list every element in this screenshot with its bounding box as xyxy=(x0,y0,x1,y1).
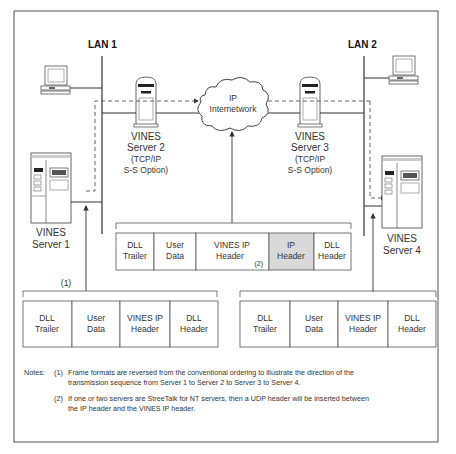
frame-left-cell-2-line2: Data xyxy=(87,324,105,334)
frame-middle-cell-4-line1: IP xyxy=(287,240,295,250)
frame-middle-note-marker: (2) xyxy=(254,260,263,268)
note-2-line2: the IP header and the VINES IP header. xyxy=(68,404,195,413)
frame-right-cell-1-line2: Trailer xyxy=(253,324,277,334)
server2-tower-icon xyxy=(134,77,158,127)
lan2-label: LAN 2 xyxy=(348,39,377,50)
cloud-label-line2: Internetwork xyxy=(210,104,258,114)
frame-left-marker: (1) xyxy=(61,278,72,288)
note-1-text: Frame formats are reversed from the conv… xyxy=(68,368,434,388)
frame-middle-cell-5-line2: Header xyxy=(318,251,346,261)
server4-label-line1: VINES xyxy=(387,233,417,244)
note-2: (2) If one or two servers are StreeTalk … xyxy=(24,394,434,414)
frame-left-cell-1-line1: DLL xyxy=(39,313,55,323)
frame-left-cell-1-line2: Trailer xyxy=(35,324,59,334)
server3-tower-icon xyxy=(298,77,322,127)
frame-middle-cell-3-line2: Header xyxy=(216,251,244,261)
cloud-label-line1: IP xyxy=(229,93,237,103)
server2-label-line3: (TCP/IP xyxy=(131,154,162,164)
workstation-left-icon xyxy=(41,66,70,94)
server3-label-line2: Server 3 xyxy=(291,142,329,153)
server3-label-line1: VINES xyxy=(295,131,325,142)
frame-middle-cell-2-line2: Data xyxy=(166,251,184,261)
frame-right-cell-1-line1: DLL xyxy=(257,313,273,323)
frame-left-cell-3-line1: VINES IP xyxy=(127,313,163,323)
frame-right-cell-4-line2: Header xyxy=(398,324,426,334)
frame-middle-cell-1-line2: Trailer xyxy=(123,251,147,261)
note-2-line1: If one or two servers are StreeTalk for … xyxy=(68,394,369,403)
notes-section: Notes: (1) Frame formats are reversed fr… xyxy=(24,368,434,414)
frame-right-cell-4-line1: DLL xyxy=(404,313,420,323)
workstation-right-icon xyxy=(389,56,418,84)
note-1-line1: Frame formats are reversed from the conv… xyxy=(68,368,354,377)
frame-right-cell-2-line2: Data xyxy=(305,324,323,334)
frame-right-cell-2-line1: User xyxy=(305,313,323,323)
lan1-label: LAN 1 xyxy=(88,39,117,50)
server1-label-line2: Server 1 xyxy=(32,239,70,250)
frame-middle-cell-3-line1: VINES IP xyxy=(214,240,250,250)
server2-label-line1: VINES xyxy=(131,131,161,142)
frame-right-cell-3-line2: Header xyxy=(349,324,377,334)
server3-label-line3: (TCP/IP xyxy=(295,154,326,164)
frame-left-cell-4-line1: DLL xyxy=(186,313,202,323)
frame-left-cell-3-line2: Header xyxy=(131,324,159,334)
frame-left-cell-4-line2: Header xyxy=(180,324,208,334)
frame-left: DLL Trailer User Data VINES IP Header DL… xyxy=(23,291,218,347)
notes-heading: Notes: xyxy=(24,368,54,388)
frame-middle-cell-2-line1: User xyxy=(166,240,184,250)
note-1: Notes: (1) Frame formats are reversed fr… xyxy=(24,368,434,388)
server1-cabinet-icon xyxy=(31,153,71,223)
frame-left-cell-2-line1: User xyxy=(87,313,105,323)
frame-right-cell-3-line1: VINES IP xyxy=(345,313,381,323)
server4-cabinet-icon xyxy=(382,156,422,228)
note-1-number: (1) xyxy=(54,368,68,388)
server2-label-line4: S-S Option) xyxy=(124,165,169,175)
frame-middle-cell-1-line1: DLL xyxy=(127,240,143,250)
note-2-text: If one or two servers are StreeTalk for … xyxy=(68,394,434,414)
server2-label-line2: Server 2 xyxy=(127,142,165,153)
frame-middle-cell-5-line1: DLL xyxy=(324,240,340,250)
note-2-number: (2) xyxy=(54,394,68,414)
note-1-line2: transmission sequence from Server 1 to S… xyxy=(68,378,301,387)
frame-middle-cell-4-line2: Header xyxy=(277,251,305,261)
frame-middle: DLL Trailer User Data VINES IP Header (2… xyxy=(116,223,351,270)
server3-label-line4: S-S Option) xyxy=(288,165,333,175)
server1-label-line1: VINES xyxy=(36,227,66,238)
frame-right: DLL Trailer User Data VINES IP Header DL… xyxy=(240,291,436,347)
server4-label-line2: Server 4 xyxy=(383,245,421,256)
